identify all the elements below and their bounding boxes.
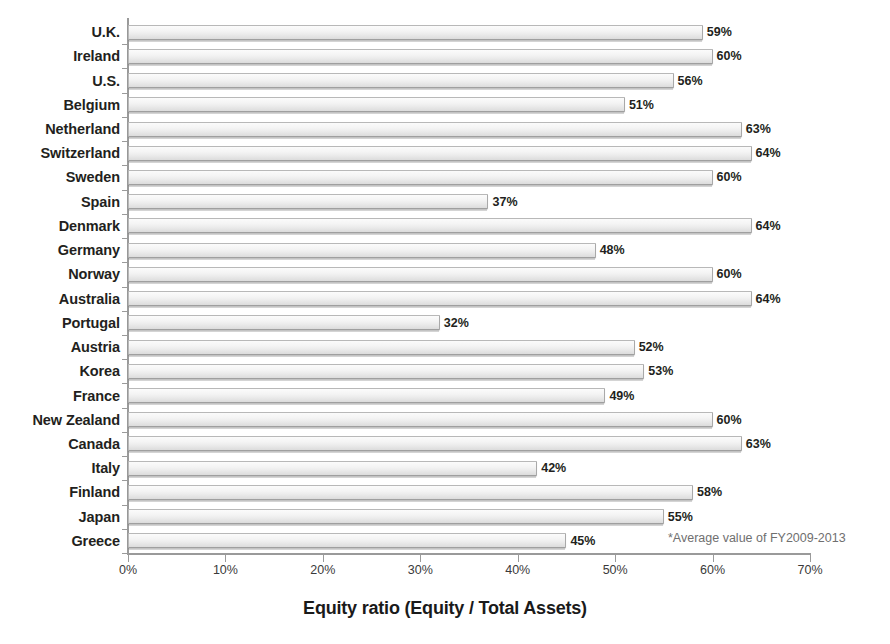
bar-row: 56% bbox=[128, 68, 810, 92]
bar-value-label: 60% bbox=[717, 413, 742, 427]
category-label-16: New Zealand bbox=[0, 408, 120, 432]
bar-row: 42% bbox=[128, 456, 810, 480]
bar-sweden bbox=[128, 170, 713, 185]
category-label-text: Switzerland bbox=[41, 145, 120, 161]
bar-row: 64% bbox=[128, 141, 810, 165]
x-axis-tick-label: 40% bbox=[505, 563, 530, 577]
x-axis-tick-label: 50% bbox=[603, 563, 628, 577]
bar-u-s bbox=[128, 73, 674, 88]
bar-row: 55% bbox=[128, 505, 810, 529]
category-label-text: Norway bbox=[68, 266, 120, 282]
bar-value-label: 60% bbox=[717, 170, 742, 184]
bar-value-label: 58% bbox=[697, 485, 722, 499]
category-label-1: Ireland bbox=[0, 44, 120, 68]
category-label-text: Austria bbox=[71, 339, 120, 355]
bar-value-label: 59% bbox=[707, 25, 732, 39]
category-label-text: Korea bbox=[79, 363, 120, 379]
category-label-14: Korea bbox=[0, 359, 120, 383]
category-label-8: Denmark bbox=[0, 214, 120, 238]
bar-row: 60% bbox=[128, 44, 810, 68]
x-axis-tick bbox=[810, 555, 811, 562]
bar-row: 63% bbox=[128, 117, 810, 141]
equity-ratio-bar-chart: U.K.IrelandU.S.BelgiumNetherlandSwitzerl… bbox=[0, 0, 890, 644]
bar-value-label: 63% bbox=[746, 437, 771, 451]
bar-norway bbox=[128, 267, 713, 282]
category-label-5: Switzerland bbox=[0, 141, 120, 165]
bar-spain bbox=[128, 194, 488, 209]
x-axis-tick bbox=[225, 555, 226, 562]
bar-switzerland bbox=[128, 146, 752, 161]
category-tick bbox=[122, 553, 128, 554]
x-axis-tick-label: 20% bbox=[310, 563, 335, 577]
category-label-17: Canada bbox=[0, 432, 120, 456]
bar-row: 51% bbox=[128, 93, 810, 117]
bar-belgium bbox=[128, 97, 625, 112]
bar-ireland bbox=[128, 49, 713, 64]
category-label-text: Denmark bbox=[59, 218, 120, 234]
x-axis-tick-label: 30% bbox=[408, 563, 433, 577]
bar-row: 37% bbox=[128, 190, 810, 214]
x-axis-tick bbox=[615, 555, 616, 562]
category-label-text: Portugal bbox=[62, 315, 120, 331]
bar-canada bbox=[128, 436, 742, 451]
bar-greece bbox=[128, 533, 566, 548]
category-label-2: U.S. bbox=[0, 68, 120, 92]
bar-italy bbox=[128, 461, 537, 476]
category-axis-labels: U.K.IrelandU.S.BelgiumNetherlandSwitzerl… bbox=[0, 20, 120, 553]
category-label-0: U.K. bbox=[0, 20, 120, 44]
category-label-text: Australia bbox=[59, 291, 120, 307]
category-label-6: Sweden bbox=[0, 165, 120, 189]
category-label-11: Australia bbox=[0, 287, 120, 311]
bar-value-label: 64% bbox=[756, 219, 781, 233]
bar-value-label: 53% bbox=[648, 364, 673, 378]
bar-row: 60% bbox=[128, 165, 810, 189]
category-label-9: Germany bbox=[0, 238, 120, 262]
bar-row: 63% bbox=[128, 432, 810, 456]
bar-value-label: 49% bbox=[609, 389, 634, 403]
category-label-13: Austria bbox=[0, 335, 120, 359]
chart-footnote: *Average value of FY2009-2013 bbox=[668, 531, 846, 545]
category-label-text: Finland bbox=[69, 484, 120, 500]
bar-new-zealand bbox=[128, 412, 713, 427]
category-label-4: Netherland bbox=[0, 117, 120, 141]
bar-value-label: 45% bbox=[570, 534, 595, 548]
x-axis-tick-label: 10% bbox=[213, 563, 238, 577]
bar-row: 32% bbox=[128, 311, 810, 335]
category-label-text: Netherland bbox=[45, 121, 120, 137]
bar-value-label: 63% bbox=[746, 122, 771, 136]
x-axis-tick bbox=[713, 555, 714, 562]
x-axis-tick bbox=[518, 555, 519, 562]
category-label-text: New Zealand bbox=[32, 412, 120, 428]
x-axis-tick bbox=[128, 555, 129, 562]
category-label-text: Canada bbox=[68, 436, 120, 452]
category-label-text: Italy bbox=[91, 460, 120, 476]
x-axis-title: Equity ratio (Equity / Total Assets) bbox=[0, 598, 890, 619]
x-axis: 0%10%20%30%40%50%60%70% bbox=[128, 555, 810, 585]
bar-value-label: 56% bbox=[678, 74, 703, 88]
bar-row: 49% bbox=[128, 383, 810, 407]
category-label-3: Belgium bbox=[0, 93, 120, 117]
bar-value-label: 55% bbox=[668, 510, 693, 524]
bar-value-label: 42% bbox=[541, 461, 566, 475]
bar-value-label: 60% bbox=[717, 49, 742, 63]
bar-finland bbox=[128, 485, 693, 500]
bar-germany bbox=[128, 243, 596, 258]
category-label-text: Germany bbox=[58, 242, 120, 258]
category-label-7: Spain bbox=[0, 190, 120, 214]
category-label-text: Japan bbox=[79, 509, 120, 525]
bar-value-label: 60% bbox=[717, 267, 742, 281]
bar-korea bbox=[128, 364, 644, 379]
bar-row: 60% bbox=[128, 408, 810, 432]
bar-value-label: 32% bbox=[444, 316, 469, 330]
bar-value-label: 64% bbox=[756, 292, 781, 306]
bar-row: 60% bbox=[128, 262, 810, 286]
bar-australia bbox=[128, 291, 752, 306]
bar-portugal bbox=[128, 315, 440, 330]
bar-value-label: 37% bbox=[492, 195, 517, 209]
x-axis-tick-label: 70% bbox=[797, 563, 822, 577]
category-label-text: Spain bbox=[81, 194, 120, 210]
category-label-text: France bbox=[73, 388, 120, 404]
x-axis-tick-label: 0% bbox=[119, 563, 137, 577]
bar-row: 48% bbox=[128, 238, 810, 262]
category-label-text: Belgium bbox=[63, 97, 120, 113]
